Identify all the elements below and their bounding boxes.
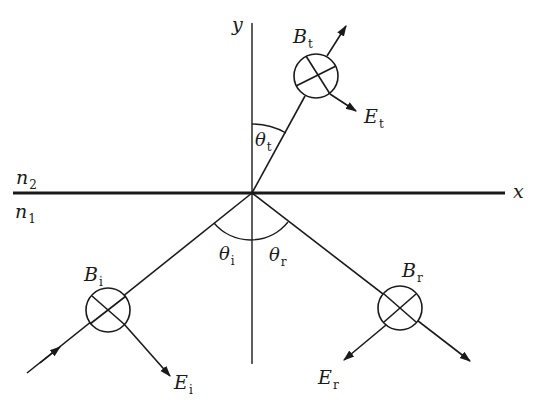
e-reflected-arrow — [344, 325, 386, 360]
b-reflected-into-page-icon — [378, 286, 422, 330]
incident-ray-arrow — [40, 347, 60, 363]
er-symbol: E — [318, 366, 332, 388]
br-symbol: B — [402, 259, 416, 281]
theta-t-label: θt — [255, 131, 272, 149]
e-incident-label: Ei — [174, 373, 193, 392]
transmitted-ray-arrow — [327, 26, 346, 56]
bt-sub: t — [308, 37, 313, 51]
et-sub: t — [379, 117, 384, 131]
ei-sub: i — [189, 383, 193, 397]
e-transmitted-label: Et — [364, 107, 384, 126]
x-axis-label: x — [513, 182, 524, 201]
theta-r-sub: r — [281, 255, 287, 269]
bt-symbol: B — [293, 25, 307, 47]
b-incident-label: Bi — [84, 265, 103, 284]
theta-i-sub: i — [231, 254, 235, 268]
y-axis-label: y — [232, 15, 243, 34]
b-incident-into-page-icon — [86, 288, 130, 332]
e-reflected-label: Er — [318, 368, 339, 387]
theta-i-r-arc — [214, 222, 288, 240]
ei-symbol: E — [174, 371, 188, 393]
theta-r-symbol: θ — [269, 244, 280, 265]
medium-n1-label: n1 — [15, 202, 36, 221]
incident-ray — [27, 193, 252, 373]
theta-i-label: θi — [219, 245, 235, 263]
y-axis-label-text: y — [232, 13, 243, 35]
theta-t-symbol: θ — [255, 129, 266, 150]
medium-n2-label: n2 — [16, 168, 37, 187]
x-axis-label-text: x — [513, 180, 524, 202]
n2-sub: 2 — [29, 178, 37, 192]
n1-symbol: n — [15, 200, 27, 222]
bi-sub: i — [99, 275, 103, 289]
br-sub: r — [417, 271, 423, 285]
e-incident-arrow — [124, 324, 170, 376]
theta-r-label: θr — [269, 246, 287, 264]
n1-sub: 1 — [28, 212, 36, 226]
b-transmitted-label: Bt — [293, 27, 313, 46]
theta-t-sub: t — [267, 140, 272, 154]
diagram-canvas — [0, 0, 538, 404]
b-reflected-label: Br — [402, 261, 423, 280]
er-sub: r — [333, 378, 339, 392]
reflected-ray — [252, 193, 470, 361]
e-transmitted-arrow — [330, 94, 356, 111]
n2-symbol: n — [16, 166, 28, 188]
b-transmitted-into-page-icon — [294, 54, 338, 98]
bi-symbol: B — [84, 263, 98, 285]
et-symbol: E — [364, 105, 378, 127]
theta-i-symbol: θ — [219, 243, 230, 264]
